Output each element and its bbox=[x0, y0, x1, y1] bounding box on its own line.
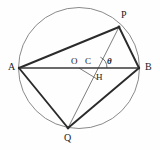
segment-PQ bbox=[68, 27, 119, 128]
point-Q-dot bbox=[67, 127, 70, 130]
segment-OH bbox=[79, 68, 97, 79]
geometry-figure: A B P Q O C H θ bbox=[0, 0, 160, 150]
point-P-dot bbox=[118, 26, 121, 29]
label-point-B: B bbox=[145, 62, 152, 72]
label-point-P: P bbox=[121, 10, 127, 20]
label-point-A: A bbox=[8, 62, 15, 72]
label-point-Q: Q bbox=[64, 133, 71, 143]
chord-QB bbox=[68, 68, 139, 128]
label-point-H: H bbox=[96, 73, 103, 82]
label-angle-theta: θ bbox=[107, 57, 112, 66]
diagram-canvas bbox=[0, 0, 160, 150]
point-A-dot bbox=[18, 67, 20, 69]
label-point-C: C bbox=[85, 57, 91, 66]
chord-AP bbox=[19, 27, 119, 68]
label-point-O: O bbox=[71, 57, 78, 66]
point-B-dot bbox=[138, 67, 140, 69]
